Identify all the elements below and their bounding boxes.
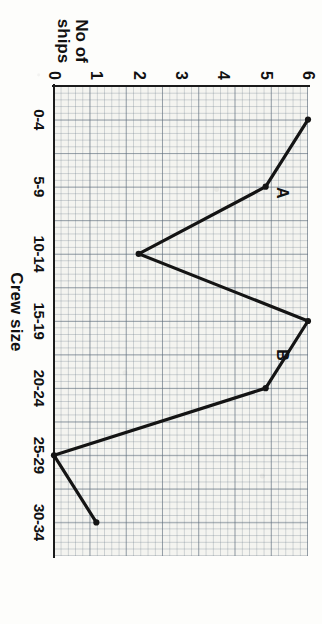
y-axis-tick-label: 2 xyxy=(130,54,148,80)
x-axis-tick-label: 0-4 xyxy=(31,109,48,130)
y-axis-tick-label: 4 xyxy=(214,54,232,80)
data-point xyxy=(263,184,269,190)
data-series-layer xyxy=(54,86,308,556)
data-point xyxy=(136,251,142,257)
data-point xyxy=(51,452,57,458)
y-axis-title-line-2: ships xyxy=(54,6,72,76)
y-axis-tick-label: 6 xyxy=(299,54,317,80)
series-line xyxy=(54,120,308,523)
x-axis-tick-label: 20-24 xyxy=(31,370,48,407)
point-annotation-b: B xyxy=(273,349,291,361)
x-axis-tick-label: 10-14 xyxy=(31,235,48,272)
data-point xyxy=(305,116,311,122)
x-axis-tick-label: 15-19 xyxy=(31,303,48,340)
y-axis-tick-label: 3 xyxy=(172,54,190,80)
plot-area: AB xyxy=(54,86,308,556)
x-axis-tick-label: 5-9 xyxy=(31,176,48,197)
y-axis-title: No of ships xyxy=(54,6,90,76)
y-axis-tick-label: 5 xyxy=(257,54,275,80)
data-point xyxy=(263,385,269,391)
point-annotation-a: A xyxy=(273,187,291,199)
y-axis-title-line-1: No of xyxy=(72,6,90,76)
x-axis-tick-label: 25-29 xyxy=(31,437,48,474)
data-point xyxy=(305,318,311,324)
data-point xyxy=(93,519,99,525)
figure-stage: AB 0-45-910-1415-1920-2425-2930-34 01234… xyxy=(0,0,322,624)
x-axis-tick-label: 30-34 xyxy=(31,504,48,541)
x-axis-title: Crew size xyxy=(6,0,26,624)
